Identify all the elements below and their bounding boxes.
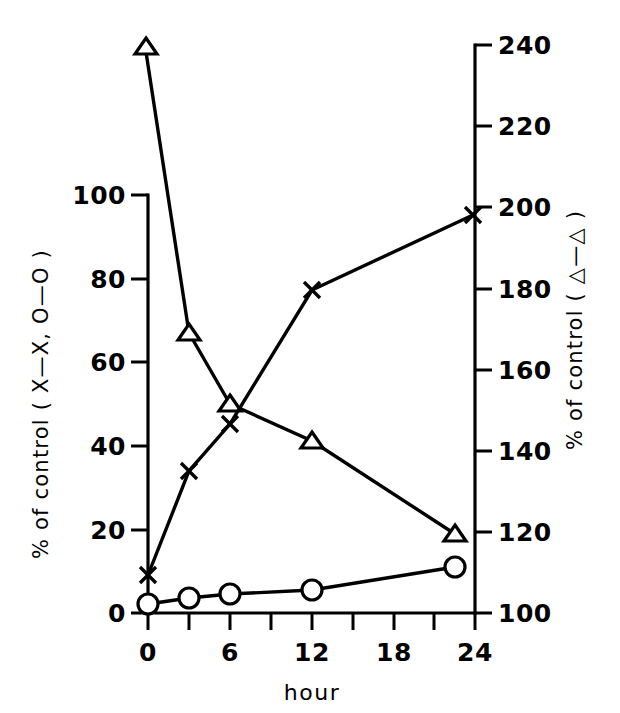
right-tick-label-220: 220 [498,112,552,141]
right-axis-title-group: % of control ( △—△ ) [563,210,587,450]
right-tick-label-200: 200 [498,193,552,222]
series-circle [138,557,465,614]
triangle-marker-3h [178,324,200,340]
x-tick-label-6: 6 [221,638,239,667]
x-tick-label-18: 18 [376,638,412,667]
circle-marker-0h [138,594,158,614]
left-axis-title: % of control ( X—X, O—O ) [29,249,53,559]
circle-marker-3h [179,588,199,608]
x-tick-label-24: 24 [457,638,493,667]
series-x [140,207,481,583]
x-axis-title: hour [284,680,340,705]
circle-marker-24h [445,557,465,577]
triangle-marker-12h [301,432,323,448]
x-marker-12h [304,282,320,298]
series-triangle-line [146,52,455,534]
circle-marker-6h [220,584,240,604]
x-tick-label-12: 12 [294,638,330,667]
left-tick-label-40: 40 [90,432,126,461]
right-axis-title: % of control ( △—△ ) [563,210,587,450]
chart-canvas: 100 80 60 40 20 0 240 220 200 180 160 14… [0,0,620,713]
left-tick-label-20: 20 [90,516,126,545]
x-marker-24h [465,207,481,223]
triangle-marker-0h [135,38,157,54]
left-axis-title-group: % of control ( X—X, O—O ) [29,249,53,559]
right-axis: 240 220 200 180 160 140 120 100 [475,31,552,628]
right-tick-label-240: 240 [498,31,552,60]
left-tick-label-100: 100 [72,181,126,210]
left-tick-label-0: 0 [108,599,126,628]
right-tick-label-160: 160 [498,356,552,385]
left-axis: 100 80 60 40 20 0 [72,181,148,628]
right-tick-label-120: 120 [498,518,552,547]
right-tick-label-180: 180 [498,275,552,304]
left-tick-label-80: 80 [90,265,126,294]
left-tick-label-60: 60 [90,348,126,377]
right-tick-label-140: 140 [498,437,552,466]
x-tick-label-0: 0 [139,638,157,667]
x-marker-6h [222,416,238,432]
series-x-line [148,215,473,575]
chart-figure: 100 80 60 40 20 0 240 220 200 180 160 14… [0,0,620,713]
right-tick-label-100: 100 [498,599,552,628]
x-axis: 0 6 12 18 24 hour [139,613,493,705]
x-marker-3h [181,463,197,479]
circle-marker-12h [302,580,322,600]
